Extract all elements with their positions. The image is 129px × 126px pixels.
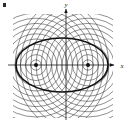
- x-axis-label: x: [119, 62, 124, 70]
- focus-point-left: [34, 63, 38, 67]
- registration-mark-icon: [3, 3, 6, 7]
- figure-container: x y: [0, 0, 129, 126]
- focus-point-right: [86, 63, 90, 67]
- ellipse-wavefront-figure: x y: [0, 0, 129, 126]
- y-axis-label: y: [63, 1, 68, 9]
